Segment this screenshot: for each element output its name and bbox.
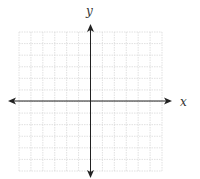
x-axis-label: x [180,95,187,109]
y-axis-label: y [85,4,93,18]
coordinate-plane: y x [0,0,200,179]
axes [8,24,172,178]
